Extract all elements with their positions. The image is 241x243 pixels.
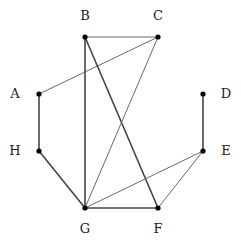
- node-f: [155, 205, 160, 210]
- node-d: [200, 91, 205, 96]
- edge-e-g: [85, 151, 203, 208]
- node-label-c: C: [153, 8, 163, 23]
- labels-layer: ABCDEFGH: [9, 8, 231, 236]
- node-b: [82, 34, 87, 39]
- node-a: [36, 91, 41, 96]
- node-label-e: E: [221, 143, 231, 158]
- node-c: [155, 34, 160, 39]
- node-e: [200, 148, 205, 153]
- node-label-d: D: [221, 86, 231, 101]
- node-label-a: A: [9, 86, 20, 101]
- edge-a-c: [39, 37, 158, 94]
- node-h: [36, 148, 41, 153]
- edge-e-f: [158, 151, 203, 208]
- node-label-f: F: [153, 221, 162, 236]
- edge-h-g: [39, 151, 85, 208]
- edges-layer: [39, 37, 203, 208]
- node-g: [82, 205, 87, 210]
- node-label-g: G: [80, 221, 90, 236]
- graph-diagram: ABCDEFGH: [0, 0, 241, 243]
- node-label-h: H: [9, 143, 20, 158]
- node-label-b: B: [80, 8, 90, 23]
